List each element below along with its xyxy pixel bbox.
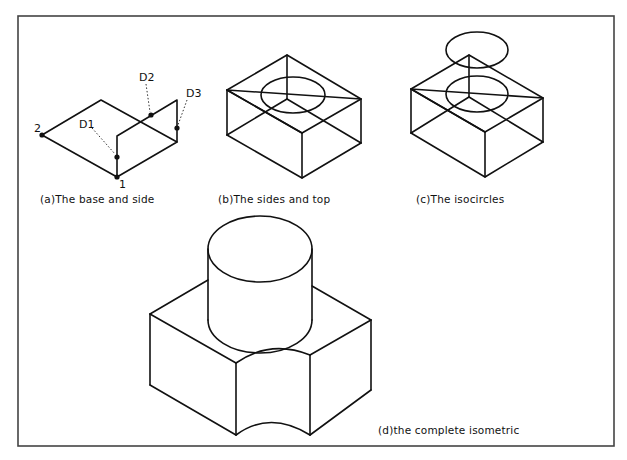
- block-front-right-top-edge: [310, 320, 371, 355]
- isometric-drawing-sheet: 2 1 D1 D2 D3 (a)The base and side (b)The…: [0, 0, 627, 460]
- cut-top-arc: [236, 349, 310, 363]
- cylinder-bottom-arc: [208, 320, 312, 353]
- label-d2: D2: [139, 71, 154, 84]
- block-top-right-edge: [312, 286, 371, 320]
- figure-a-base-and-side: 2 1 D1 D2 D3 (a)The base and side: [34, 71, 201, 205]
- label-2: 2: [34, 122, 41, 135]
- figure-c-isocircles: (c)The isocircles: [411, 32, 543, 205]
- block-front-right-bottom-edge: [310, 390, 371, 435]
- figure-b-sides-and-top: (b)The sides and top: [218, 55, 361, 205]
- leader-d2: [146, 84, 150, 112]
- bottom-edges: [227, 135, 361, 178]
- leader-d3: [178, 100, 187, 125]
- caption-d: (d)the complete isometric: [378, 424, 519, 436]
- bottom-edges: [411, 133, 543, 177]
- point-d3: [174, 125, 179, 130]
- construction-line-left: [411, 97, 469, 133]
- top-diagonal: [411, 89, 543, 98]
- sheet-border: [18, 16, 614, 446]
- construction-line-front: [227, 90, 302, 133]
- isocircle-upper: [446, 32, 508, 68]
- block-front-left-bottom-edge: [150, 385, 236, 435]
- top-diagonal: [227, 90, 361, 99]
- cut-bottom-arc: [236, 423, 310, 436]
- caption-c: (c)The isocircles: [416, 193, 504, 205]
- label-1: 1: [119, 178, 126, 191]
- leader-d1: [92, 128, 115, 154]
- construction-line-left: [227, 99, 287, 135]
- block-front-left-top-edge: [150, 314, 236, 363]
- point-d2: [148, 112, 153, 117]
- caption-b: (b)The sides and top: [218, 193, 330, 205]
- caption-a: (a)The base and side: [40, 193, 154, 205]
- side-panel: [117, 100, 177, 177]
- label-d3: D3: [186, 87, 201, 100]
- label-d1: D1: [79, 118, 94, 131]
- block-top-left-edge: [150, 280, 208, 314]
- cylinder-top-ellipse: [208, 216, 312, 282]
- point-d1: [114, 154, 119, 159]
- figure-d-complete-isometric: (d)the complete isometric: [150, 216, 519, 436]
